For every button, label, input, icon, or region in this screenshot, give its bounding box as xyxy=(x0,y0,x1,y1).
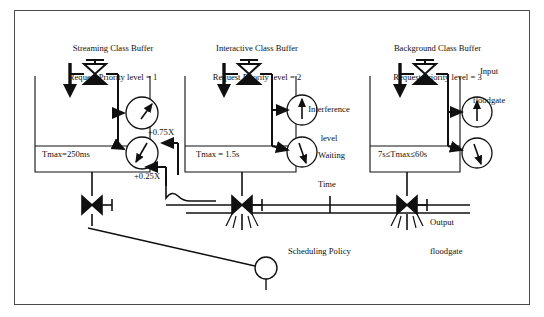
diagram-canvas: Streaming Class Buffer Request Priority … xyxy=(0,0,544,317)
buffer-title-interactive-line2: Request Priority level = 2 xyxy=(192,73,322,83)
output-floodgate-label-line2: floodgate xyxy=(430,247,488,257)
weight-low-label: +0.25X xyxy=(134,172,160,182)
buffer-title-streaming-line2: Request Priority level = 1 xyxy=(48,73,178,83)
input-floodgate-label: Input floodgate xyxy=(459,47,519,126)
waiting-time-label-line2: Time xyxy=(318,180,364,190)
interference-level-label-line1: Interference xyxy=(296,105,362,115)
buffer-title-streaming-line1: Streaming Class Buffer xyxy=(48,44,178,54)
scheduling-policy-label: Scheduling Policy xyxy=(288,247,351,257)
gauge-waiting-background xyxy=(462,138,492,168)
waiting-time-label: Waiting Time xyxy=(318,131,364,210)
buffer-title-streaming: Streaming Class Buffer Request Priority … xyxy=(48,24,178,103)
scheduling-policy-controller[interactable] xyxy=(88,228,277,290)
tank-label-interactive: Tmax = 1.5s xyxy=(196,150,239,160)
buffer-title-interactive-line1: Interactive Class Buffer xyxy=(192,44,322,54)
output-floodgate-background[interactable] xyxy=(391,172,427,230)
output-floodgate-label-line1: Output xyxy=(430,218,488,228)
output-valve-interactive[interactable] xyxy=(226,172,262,230)
input-floodgate-label-line2: floodgate xyxy=(459,96,519,106)
tank-label-background: 7s≤Tmax≤60s xyxy=(378,150,427,160)
waiting-time-label-line1: Waiting xyxy=(318,151,364,161)
gauge-waiting-streaming xyxy=(126,137,158,169)
output-valve-streaming[interactable] xyxy=(82,172,112,226)
output-floodgate-label: Output floodgate xyxy=(430,198,488,277)
weight-high-label: +0.75X xyxy=(148,128,174,138)
tank-label-streaming: Tmax=250ms xyxy=(42,150,90,160)
input-floodgate-label-line1: Input xyxy=(459,67,519,77)
